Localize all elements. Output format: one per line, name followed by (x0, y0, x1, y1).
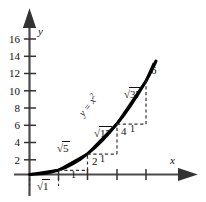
sqrt-1-value: 1 (42, 179, 50, 192)
sqrt-37-label: √37 (124, 89, 142, 100)
y-tick-label-4: 4 (2, 137, 20, 148)
y-axis (24, 28, 36, 196)
sqrt-5-label: √5 (57, 143, 70, 154)
y-tick-label-14: 14 (2, 51, 20, 62)
chord-1-2 (59, 154, 88, 170)
x-axis-label: x (170, 155, 175, 166)
y-tick-label-2: 2 (2, 155, 20, 166)
y-axis-label: y (38, 26, 43, 37)
run-label-2: 1 (100, 154, 105, 164)
y-tick-label-12: 12 (2, 68, 20, 79)
sqrt-5-value: 5 (62, 141, 70, 154)
math-figure: 16 14 12 10 8 6 4 2 y x y = x2 √1 √5 √17… (0, 0, 206, 202)
figure-canvas (0, 0, 206, 202)
y-tick-label-6: 6 (2, 120, 20, 131)
run-label-3: 1 (130, 124, 135, 134)
sqrt-17-label: √17 (94, 128, 112, 139)
sqrt-1-label: √1 (37, 181, 50, 192)
rise-label-6: 6 (151, 65, 157, 76)
rise-label-4: 4 (121, 126, 127, 137)
y-tick-label-10: 10 (2, 86, 20, 97)
sqrt-17-value: 17 (99, 126, 112, 139)
run-label-1: 1 (71, 170, 76, 180)
y-tick-label-16: 16 (2, 34, 20, 45)
y-tick-label-8: 8 (2, 103, 20, 114)
sqrt-37-value: 37 (129, 87, 142, 100)
rise-label-2: 2 (92, 156, 98, 167)
